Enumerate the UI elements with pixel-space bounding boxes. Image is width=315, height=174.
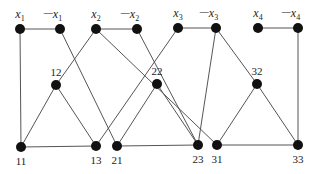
node-x3	[173, 23, 183, 33]
edge-32-31	[217, 84, 257, 145]
label-x2: x2	[90, 7, 100, 23]
edge-22-23	[157, 84, 198, 145]
node-11	[16, 142, 26, 152]
label-clause-13: 13	[91, 154, 103, 166]
label-nx2: —x2	[120, 7, 139, 23]
node-x1	[15, 24, 25, 34]
label-clause-23: 23	[193, 153, 205, 165]
edge-nx3-23	[198, 28, 216, 145]
edge-11-13	[21, 146, 96, 147]
node-21	[112, 141, 122, 151]
edge-12-11	[21, 85, 56, 147]
edge-x3-13	[96, 28, 178, 146]
node-nx1	[55, 24, 65, 34]
node-12	[51, 80, 61, 90]
node-nx2	[132, 24, 142, 34]
edge-x1-11	[20, 29, 21, 147]
node-nx3	[211, 23, 221, 33]
graph-diagram: x1—x1x2—x2x3—x3x4—x4122232111321233133	[0, 0, 315, 174]
label-clause-12: 12	[51, 66, 62, 78]
edge-12-13	[56, 85, 96, 146]
label-nx1: —x1	[43, 7, 62, 23]
nodes-layer	[15, 23, 303, 152]
label-clause-31: 31	[212, 153, 223, 165]
label-clause-33: 33	[293, 153, 305, 165]
node-32	[252, 79, 262, 89]
node-x4	[253, 23, 263, 33]
node-23	[193, 140, 203, 150]
edge-x2-12	[56, 29, 96, 85]
label-nx3: —x3	[199, 6, 218, 22]
label-nx4: —x4	[281, 6, 300, 22]
node-13	[91, 141, 101, 151]
node-22	[152, 79, 162, 89]
node-nx4	[293, 23, 303, 33]
label-x3: x3	[172, 6, 182, 22]
label-clause-21: 21	[112, 154, 123, 166]
edge-nx2-23	[137, 29, 198, 145]
label-clause-11: 11	[16, 155, 27, 167]
node-33	[293, 140, 303, 150]
edge-21-23	[117, 145, 198, 146]
label-clause-22: 22	[152, 65, 163, 77]
edge-32-33	[257, 84, 298, 145]
node-x2	[91, 24, 101, 34]
label-clause-32: 32	[252, 65, 263, 77]
edge-22-21	[117, 84, 157, 146]
node-31	[212, 140, 222, 150]
label-x1: x1	[14, 7, 24, 23]
label-x4: x4	[252, 6, 262, 22]
